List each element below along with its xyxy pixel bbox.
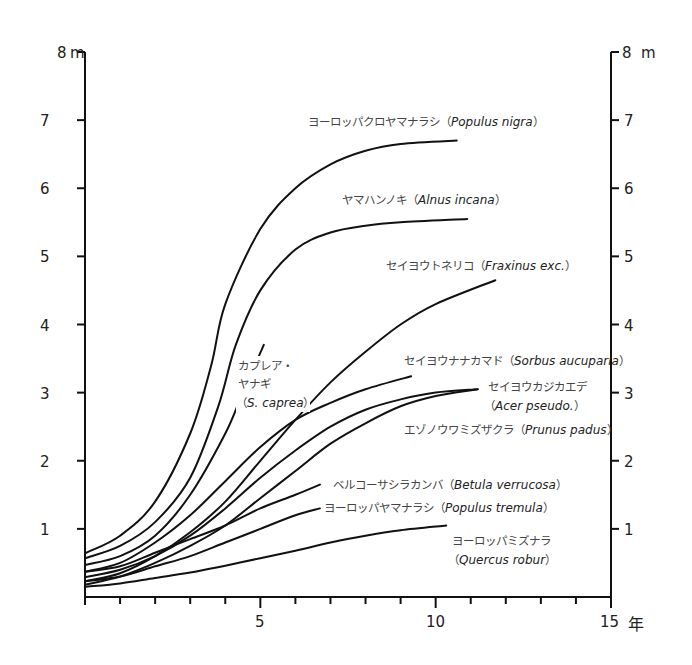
left-y-tick-labels: 1234567 [40,112,50,539]
y-tick-label: 2 [624,453,634,471]
label-salix-line3: （S. caprea） [236,396,314,410]
right-y-tick-labels: 1234567 [624,112,634,539]
growth-chart: 8 m 8 m 1234567 1234567 5 10 15 年 ヨーロッパク… [0,0,692,665]
y-tick-label: 5 [40,248,50,266]
y-tick-label: 2 [40,453,50,471]
y-tick-label: 7 [624,112,634,130]
series-labels: ヨーロッパクロヤマナラシ（Populus nigra） ヤマハンノキ（Alnus… [236,115,630,567]
y-tick-label: 1 [624,521,634,539]
label-salix-line1: カプレア・ [238,359,293,373]
label-betula: ベルコーサシラカンバ（Betula verrucosa） [333,478,567,492]
axes [77,52,619,608]
label-fraxinus: セイヨウトネリコ（Fraxinus exc.） [386,259,576,273]
y-tick-label: 3 [624,385,634,403]
y-tick-label: 1 [40,521,50,539]
label-populus-tremula: ヨーロッパヤマナラシ（Populus tremula） [324,501,554,515]
left-top-tick-label: 8 [57,44,67,62]
x-ticks [85,597,611,608]
label-quercus-line1: ヨーロッパミズナラ [452,534,551,548]
x-tick-label-5: 5 [255,613,265,631]
x-unit-label: 年 [628,615,644,634]
y-tick-label: 5 [624,248,634,266]
label-acer-line1: セイヨウカジカエデ [488,380,588,394]
y-tick-label: 7 [40,112,50,130]
label-prunus: エゾノウワミズザクラ（Prunus padus） [404,423,618,437]
label-alnus-incana: ヤマハンノキ（Alnus incana） [342,193,506,207]
label-salix-line2: ヤナギ [238,377,271,391]
curve-betula-verrucosa [85,485,320,572]
label-acer-line2: （Acer pseudo.） [484,399,585,413]
y-tick-label: 3 [40,385,50,403]
label-sorbus: セイヨウナナカマド（Sorbus aucuparia） [404,354,630,368]
left-y-ticks [77,52,85,529]
label-populus-nigra: ヨーロッパクロヤマナラシ（Populus nigra） [308,115,544,129]
x-tick-label-10: 10 [426,613,445,631]
x-tick-label-15: 15 [600,613,619,631]
y-tick-label: 6 [40,180,50,198]
left-unit-label: m [70,44,85,62]
label-quercus-line2: （Quercus robur） [448,553,556,567]
y-tick-label: 6 [624,180,634,198]
right-top-tick-label: 8 [622,44,632,62]
y-tick-label: 4 [624,317,634,335]
right-y-ticks [611,52,619,529]
y-tick-label: 4 [40,317,50,335]
right-unit-label: m [641,44,656,62]
